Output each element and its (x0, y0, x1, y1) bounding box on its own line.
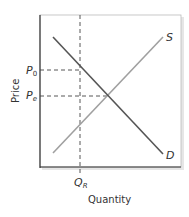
x-axis-title: Quantity (88, 194, 131, 205)
demand-label: D (166, 149, 174, 162)
supply-label: S (166, 31, 173, 44)
supply-demand-diagram: S D P0 Pe QR Quantity Price (0, 0, 189, 217)
y-axis-title: Price (10, 79, 21, 103)
pe-label: Pe (26, 89, 37, 103)
p0-label: P0 (26, 64, 37, 78)
qr-label: QR (74, 176, 88, 190)
